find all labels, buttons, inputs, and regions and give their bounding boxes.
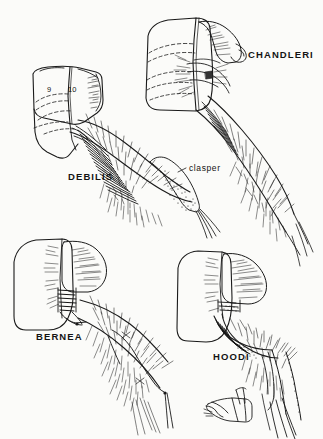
part-label-clasper: clasper bbox=[189, 164, 221, 173]
hoodi-accessory-sclerite bbox=[204, 388, 252, 422]
illustration-plate: DEBILIS CHANDLERI BERNEA HOODI clasper 9… bbox=[0, 0, 323, 439]
segment-label-10: 10 bbox=[68, 86, 76, 94]
figure-debilis bbox=[33, 66, 220, 238]
species-label-debilis: DEBILIS bbox=[68, 172, 113, 182]
species-label-hoodi: HOODI bbox=[213, 352, 250, 362]
figure-hoodi bbox=[177, 251, 301, 439]
species-label-bernea: BERNEA bbox=[36, 332, 83, 342]
figure-drawing-layer bbox=[0, 0, 323, 439]
segment-label-9: 9 bbox=[47, 86, 51, 94]
species-label-chandleri: CHANDLERI bbox=[248, 50, 314, 60]
